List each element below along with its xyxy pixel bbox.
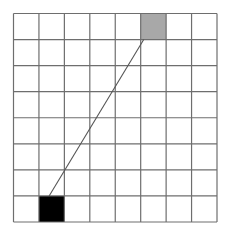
grid-lines bbox=[14, 14, 218, 223]
start-cell bbox=[39, 196, 64, 222]
grid-diagram bbox=[0, 0, 227, 233]
goal-cell bbox=[141, 14, 166, 40]
